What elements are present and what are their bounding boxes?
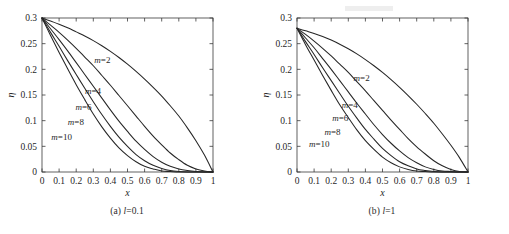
curve-m6 [42,18,213,172]
y-axis-tick-label: 0.15 [275,90,292,100]
curve-m10 [297,28,468,172]
x-axis-tick-label: 0.7 [156,176,168,186]
x-axis-tick-label: 0.5 [377,176,389,186]
x-axis-tick-label: 0.9 [445,176,457,186]
y-axis-tick-label: 0 [32,167,37,177]
x-axis-tick-label: 0.6 [394,176,406,186]
plot-frame [42,18,213,172]
curve-m10 [42,18,213,172]
x-axis-label: x [379,187,385,198]
y-axis-tick-label: 0.15 [20,90,37,100]
caption-a-prefix: (a) [110,206,121,216]
y-axis-tick-label: 0.3 [25,13,37,23]
y-axis-tick-label: 0.1 [25,116,37,126]
series-annotation-m6: m=6 [332,113,349,123]
series-label: m=6 [332,113,349,123]
series-annotation-m4: m=4 [85,86,102,96]
series-annotation-m8: m=8 [325,127,342,137]
x-axis-tick-label: 0.8 [173,176,185,186]
x-axis-tick-label: 0.1 [308,176,320,186]
series-annotation-m2: m=2 [94,55,110,65]
y-axis-label: η [5,92,16,97]
y-axis-tick-label: 0.05 [275,142,292,152]
y-axis-label: η [260,92,271,97]
plot-a-svg: 00.10.20.30.40.50.60.70.80.9100.050.10.1… [0,0,254,200]
x-axis-tick-label: 0 [295,176,300,186]
y-axis-tick-label: 0 [287,167,292,177]
curve-m2 [297,28,468,172]
caption-b: (b) l=1 [255,206,509,216]
x-axis-tick-label: 0.7 [411,176,423,186]
curve-m8 [42,18,213,172]
y-axis-tick-label: 0.25 [20,39,37,49]
series-label: m=4 [342,100,359,110]
curve-m4 [42,18,213,172]
series-label: m=2 [354,73,370,83]
chart-panel-a: 00.10.20.30.40.50.60.70.80.9100.050.10.1… [0,0,254,234]
x-axis-tick-label: 0 [40,176,45,186]
figure-container: 00.10.20.30.40.50.60.70.80.9100.050.10.1… [0,0,509,234]
series-label: m=10 [309,139,330,149]
series-label: m=4 [85,86,102,96]
caption-a-value: =0.1 [126,206,144,216]
series-label: m=2 [94,55,110,65]
series-label: m=8 [68,117,85,127]
series-annotation-m10: m=10 [309,139,330,149]
y-axis-tick-label: 0.1 [280,116,292,126]
plot-b-svg: 00.10.20.30.40.50.60.70.80.9100.050.10.1… [255,0,509,200]
y-axis-tick-label: 0.2 [280,65,292,75]
series-annotation-m6: m=6 [76,102,93,112]
curve-m6 [297,28,468,172]
series-label: m=10 [51,132,72,142]
x-axis-tick-label: 0.4 [359,176,371,186]
x-axis-tick-label: 0.2 [70,176,82,186]
series-annotation-m8: m=8 [68,117,85,127]
y-axis-tick-label: 0.25 [275,39,292,49]
series-annotation-m4: m=4 [342,100,359,110]
y-axis-tick-label: 0.05 [20,142,37,152]
y-axis-tick-label: 0.2 [25,65,37,75]
x-axis-tick-label: 0.8 [428,176,440,186]
chart-panel-b: 00.10.20.30.40.50.60.70.80.9100.050.10.1… [255,0,509,234]
x-axis-tick-label: 0.4 [104,176,116,186]
curve-m2 [42,18,213,172]
y-axis-tick-label: 0.3 [280,13,292,23]
x-axis-tick-label: 1 [211,176,216,186]
caption-b-prefix: (b) [369,206,380,216]
x-axis-tick-label: 0.5 [122,176,134,186]
curve-m8 [297,28,468,172]
caption-b-value: =1 [385,206,395,216]
series-label: m=8 [325,127,342,137]
series-annotation-m10: m=10 [51,132,72,142]
x-axis-tick-label: 0.2 [325,176,337,186]
x-axis-tick-label: 0.3 [87,176,99,186]
x-axis-tick-label: 0.6 [139,176,151,186]
curve-m4 [297,28,468,172]
series-label: m=6 [76,102,93,112]
x-axis-tick-label: 1 [466,176,471,186]
series-annotation-m2: m=2 [354,73,370,83]
x-axis-label: x [124,187,130,198]
caption-a: (a) l=0.1 [0,206,254,216]
x-axis-tick-label: 0.1 [53,176,65,186]
x-axis-tick-label: 0.3 [342,176,354,186]
x-axis-tick-label: 0.9 [190,176,202,186]
